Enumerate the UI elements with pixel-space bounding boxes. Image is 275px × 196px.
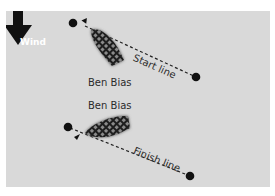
start-boat-label: Ben Bias xyxy=(88,77,132,88)
finish-pin-mark-icon xyxy=(64,123,73,132)
start-arrow-icon xyxy=(81,18,89,25)
start-pin-mark-icon xyxy=(69,19,78,28)
finish-boat-label: Ben Bias xyxy=(88,100,132,111)
start-committee-mark-icon xyxy=(192,73,201,82)
finish-committee-mark-icon xyxy=(186,172,195,181)
finish-boat-icon xyxy=(85,116,130,137)
caption-strip xyxy=(0,188,275,196)
finish-arrow-icon xyxy=(74,134,80,140)
start-line xyxy=(69,18,201,81)
wind-label: Wind xyxy=(20,37,46,47)
start-boat-icon xyxy=(91,29,124,66)
diagram-canvas: Wind Ben Bias Start line Ben Bias Finish… xyxy=(6,11,270,187)
